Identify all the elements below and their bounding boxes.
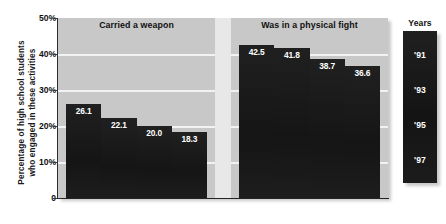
bar-1-1[interactable]: 41.8 <box>274 48 309 198</box>
y-axis-tick-2: 30% <box>28 85 56 95</box>
legend-item-2[interactable]: '95 <box>414 120 426 130</box>
y-axis-tickmark-1 <box>53 54 58 55</box>
y-axis-tick-5: 0 <box>28 193 56 203</box>
legend: Years '91'93'95'97 <box>400 18 440 183</box>
bar-value-label-1-0: 42.5 <box>239 47 274 57</box>
bar-value-label-1-2: 38.7 <box>310 61 345 71</box>
bar-1-2[interactable]: 38.7 <box>310 59 345 198</box>
y-axis-tickmark-3 <box>53 126 58 127</box>
bar-0-2[interactable]: 20.0 <box>137 126 172 198</box>
y-axis-tick-3: 20% <box>28 121 56 131</box>
bar-value-label-0-1: 22.1 <box>101 120 136 130</box>
panel-carried-a-weapon: Carried a weapon 26.122.120.018.3 <box>58 18 215 198</box>
y-axis-tick-4: 10% <box>28 157 56 167</box>
bar-1-3[interactable]: 36.6 <box>345 66 380 198</box>
legend-item-3[interactable]: '97 <box>414 155 426 165</box>
panel-title-1: Was in a physical fight <box>231 20 388 30</box>
x-axis-line <box>57 198 389 199</box>
bar-0-1[interactable]: 22.1 <box>101 118 136 198</box>
panel-was-in-a-physical-fight: Was in a physical fight 42.541.838.736.6 <box>231 18 388 198</box>
y-axis-tickmark-4 <box>53 162 58 163</box>
panel-divider <box>215 18 231 198</box>
bar-0-3[interactable]: 18.3 <box>172 132 207 198</box>
y-axis-tick-labels: 50%40%30%20%10%0 <box>28 0 56 224</box>
legend-item-0[interactable]: '91 <box>414 50 426 60</box>
bar-value-label-0-2: 20.0 <box>137 128 172 138</box>
bar-value-label-1-1: 41.8 <box>274 50 309 60</box>
y-axis-tickmark-5 <box>53 198 58 199</box>
y-axis-tickmark-0 <box>53 18 58 19</box>
y-axis-tickmark-2 <box>53 90 58 91</box>
bar-chart: Percentage of high school students who e… <box>0 0 446 224</box>
bar-group-0: 26.122.120.018.3 <box>66 18 207 198</box>
legend-item-1[interactable]: '93 <box>414 85 426 95</box>
bar-value-label-0-3: 18.3 <box>172 134 207 144</box>
bar-value-label-0-0: 26.1 <box>66 106 101 116</box>
y-axis-tick-0: 50% <box>28 13 56 23</box>
legend-box: '91'93'95'97 <box>403 31 437 183</box>
bar-0-0[interactable]: 26.1 <box>66 104 101 198</box>
panel-title-0: Carried a weapon <box>58 20 215 30</box>
y-axis-tick-1: 40% <box>28 49 56 59</box>
bar-value-label-1-3: 36.6 <box>345 68 380 78</box>
bar-1-0[interactable]: 42.5 <box>239 45 274 198</box>
bar-group-1: 42.541.838.736.6 <box>239 18 380 198</box>
y-axis-title-line-1: Percentage of high school students <box>17 18 28 208</box>
legend-title: Years <box>400 18 440 28</box>
plot-area: Carried a weapon 26.122.120.018.3 Was in… <box>58 18 388 198</box>
